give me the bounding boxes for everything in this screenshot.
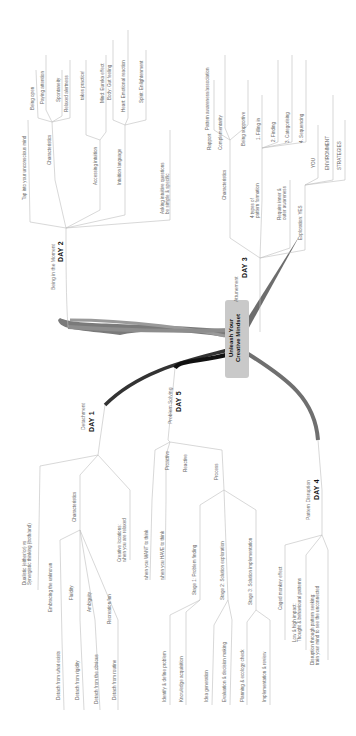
day3-label: DAY 3: [241, 257, 248, 278]
day2-tap[interactable]: Tap into your unconscious mind: [22, 136, 27, 200]
day1-dualistic[interactable]: Dualistic (either/or) vs Synergistic thi…: [22, 523, 33, 585]
day3-explore-1[interactable]: YOU: [311, 158, 316, 168]
day1-char-4[interactable]: Recreation/fun: [107, 594, 112, 624]
day1-char-1[interactable]: Embracing the unknown: [48, 563, 53, 612]
day3-char-3[interactable]: Being supportive: [241, 112, 246, 146]
day5-proactive[interactable]: Proactive: [165, 451, 170, 470]
day1-detach-4[interactable]: Detach from routine: [112, 660, 117, 700]
day4-disruption[interactable]: Disruption through pattern seeking: trai…: [310, 586, 321, 665]
day1-char-3[interactable]: Ambiguity: [87, 592, 92, 612]
day1-topic[interactable]: Detachment: [80, 403, 86, 430]
day3-type-4[interactable]: 4. Sequencing: [299, 114, 304, 143]
day3-explore-3[interactable]: STRATEGIES: [337, 141, 342, 170]
day4-topic[interactable]: Pattern Disruption: [305, 480, 311, 520]
day1-detach-3[interactable]: Detach from the obvious: [94, 654, 99, 704]
day2-topic[interactable]: Being in the Moment: [50, 244, 56, 290]
day2-access-2[interactable]: Mind: Eureka effect: [100, 64, 105, 104]
day2-char-2[interactable]: Paying attention: [40, 71, 45, 104]
day1-characteristics[interactable]: Characteristics: [72, 492, 77, 522]
day5-stage-2[interactable]: Stage 2: Solution exploration: [220, 541, 225, 600]
day2-accessing[interactable]: Accessing intuition: [93, 147, 98, 185]
day2-asking[interactable]: Asking intuitive questions be simple & s…: [160, 162, 171, 214]
day2-characteristics[interactable]: Characteristics: [47, 135, 52, 165]
day3-exploration[interactable]: Exploration: YES: [298, 205, 303, 240]
day5-label: DAY 5: [175, 391, 182, 412]
day3-type-3[interactable]: 3. Categorising: [285, 112, 290, 143]
day2-lang-2[interactable]: Heart: Emotional reaction: [121, 60, 126, 112]
day3-require[interactable]: Require inner & outer awareness: [277, 186, 288, 220]
day3-type-2[interactable]: 2. Finding: [271, 122, 276, 142]
day5-proactive-item[interactable]: when you WANT to think: [144, 530, 149, 580]
day4-label: DAY 4: [313, 479, 320, 500]
day2-label: DAY 2: [57, 241, 64, 262]
day5-process[interactable]: Process: [214, 463, 219, 480]
day2-char-4[interactable]: Relaxed alertness: [64, 75, 69, 112]
central-topic-label: Unleash Your Creative Mindset: [228, 302, 242, 374]
day5-stage2-item-1[interactable]: Idea generation: [204, 670, 209, 702]
day5-stage1-item-1[interactable]: Identify & define problem: [162, 651, 167, 702]
day1-label: DAY 1: [88, 411, 95, 432]
day4-caged[interactable]: Caged monkey effect: [278, 567, 283, 610]
day5-stage3-item-2[interactable]: Implementation & review: [262, 652, 267, 702]
day2-lang-1[interactable]: Body: Gut feeling: [107, 65, 112, 100]
day1-char-2[interactable]: Fluidity: [69, 585, 74, 600]
day3-explore-2[interactable]: ENVIRONMENT: [325, 136, 330, 170]
day4-low[interactable]: Low & high impact: Thought & behavioural…: [292, 578, 303, 642]
day2-char-1[interactable]: Being open: [30, 87, 35, 110]
day5-reactive-item[interactable]: when you HAVE to think: [160, 531, 165, 580]
day5-topic[interactable]: Problem Solving: [167, 388, 173, 424]
day3-char-1[interactable]: Rapport: [207, 134, 212, 150]
mind-map: Unleash Your Creative Mindset Being in t…: [0, 0, 356, 736]
day3-types[interactable]: 4 types of pattern formation: [250, 183, 261, 218]
day5-stage-1[interactable]: Stage 1: Problem finding: [192, 545, 197, 595]
day5-stage-3[interactable]: Stage 3: Solution implementation: [248, 538, 253, 605]
day3-type-1[interactable]: 1. Filling in: [256, 118, 261, 140]
day2-char-3[interactable]: Spontaneity: [56, 78, 61, 102]
day3-pattern[interactable]: Pattern awareness/association: [205, 67, 210, 130]
day5-stage2-item-2[interactable]: Evaluation & decision making: [222, 642, 227, 702]
day2-language[interactable]: Intuition language: [117, 149, 122, 185]
day3-characteristics[interactable]: Characteristics: [222, 170, 227, 200]
day1-detach-2[interactable]: Detach from rigidity: [75, 660, 80, 700]
day1-creative[interactable]: Creative locations: when you are relaxed: [117, 518, 128, 562]
day2-access-1[interactable]: takes practice!: [80, 70, 85, 100]
day2-lang-3[interactable]: Spirit: Enlightenment: [139, 61, 144, 103]
day1-detach-1[interactable]: Detach from what exists: [56, 651, 61, 700]
day5-stage3-item-1[interactable]: Planning & ecology check: [240, 649, 245, 702]
day5-reactive[interactable]: Reactive: [183, 454, 188, 472]
day5-stage1-item-2[interactable]: Knowledge acquisition: [179, 656, 184, 702]
day3-char-2[interactable]: Complementarity: [218, 115, 223, 150]
day3-topic[interactable]: Attunement: [233, 276, 239, 302]
